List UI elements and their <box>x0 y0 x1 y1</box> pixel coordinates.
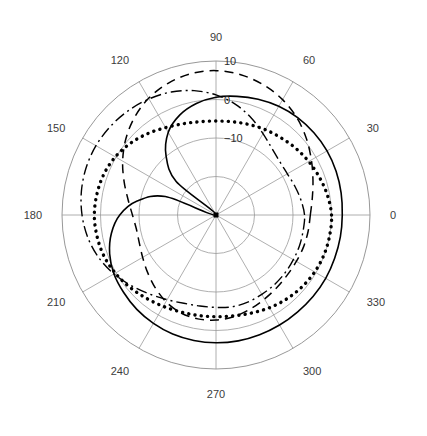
angle-tick-label-330: 330 <box>367 296 385 308</box>
angle-tick-label-60: 60 <box>303 54 315 66</box>
angle-tick-label-210: 210 <box>47 296 65 308</box>
polar-chart: 0306090120150180210240270300330100−10 <box>0 0 427 436</box>
angle-tick-label-300: 300 <box>303 365 321 377</box>
grid-spoke-120 <box>139 82 216 215</box>
series-curve-dash-dot <box>81 90 305 307</box>
series-curve-dotted <box>94 121 331 317</box>
angle-tick-label-150: 150 <box>47 122 65 134</box>
grid-spoke-240 <box>139 215 216 348</box>
series-curve-dashed <box>123 71 313 321</box>
angle-tick-label-240: 240 <box>111 365 129 377</box>
axis-labels: 0306090120150180210240270300330100−10 <box>24 31 396 400</box>
radial-tick-label-10: 10 <box>224 55 236 67</box>
angle-tick-label-180: 180 <box>24 209 42 221</box>
angle-tick-label-30: 30 <box>367 122 379 134</box>
angle-tick-label-270: 270 <box>207 388 225 400</box>
radial-tick-label-0: 0 <box>224 94 230 106</box>
angle-tick-label-90: 90 <box>210 31 222 43</box>
angle-tick-label-120: 120 <box>111 54 129 66</box>
grid-spoke-210 <box>83 215 216 292</box>
polar-plot-svg: 0306090120150180210240270300330100−10 <box>0 0 427 436</box>
origin-marker <box>214 213 219 218</box>
angle-tick-label-0: 0 <box>390 209 396 221</box>
radial-tick-label--10: −10 <box>224 132 243 144</box>
grid-spoke-300 <box>216 215 293 348</box>
